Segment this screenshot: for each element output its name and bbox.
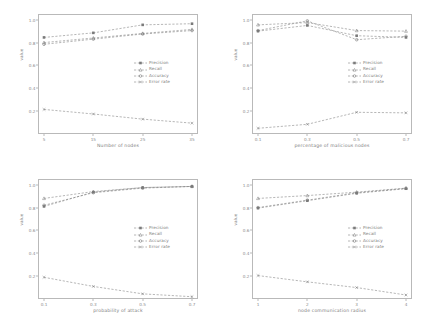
y-tick-label: 1.0 <box>243 182 250 187</box>
x-tick-label: 0.3 <box>304 137 311 142</box>
chart-panel-3: valueprobability of attack0.20.40.60.81.… <box>0 165 214 330</box>
x-axis-label: probability of attack <box>38 308 198 313</box>
y-tick-label: 0.8 <box>243 40 250 45</box>
figure-grid: valueNumber of nodes0.20.40.60.81.051525… <box>0 0 428 330</box>
legend-marker-icon <box>134 73 147 79</box>
x-axis-label: node communication radius <box>252 308 412 313</box>
x-tick-mark <box>142 134 143 136</box>
legend: Precision Recall Accuracy Error rate <box>348 225 384 251</box>
series-lines <box>252 179 412 299</box>
x-tick-label: 4 <box>405 302 408 307</box>
legend-marker-icon <box>134 60 147 66</box>
x-tick-label: 0.1 <box>255 137 262 142</box>
x-tick-mark <box>307 134 308 136</box>
x-tick-mark <box>93 299 94 301</box>
legend-label: Recall <box>149 232 162 236</box>
legend-label: Accuracy <box>363 74 383 78</box>
y-axis-label: value <box>19 198 24 242</box>
x-tick-label: 15 <box>91 137 96 142</box>
y-tick-label: 0.6 <box>29 228 36 233</box>
legend-label: Accuracy <box>363 239 383 243</box>
x-tick-mark <box>406 134 407 136</box>
x-tick-label: 0.1 <box>41 302 48 307</box>
y-axis-label: value <box>19 33 24 77</box>
plot-area: 0.20.40.60.81.00.10.30.50.7 Precision Re… <box>252 14 412 134</box>
legend-label: Error rate <box>363 245 384 249</box>
y-tick-label: 0.2 <box>29 109 36 114</box>
x-tick-mark <box>258 134 259 136</box>
y-tick-label: 0.2 <box>243 274 250 279</box>
y-tick-label: 1.0 <box>29 182 36 187</box>
y-axis-label: value <box>233 198 238 242</box>
legend-label: Accuracy <box>149 74 169 78</box>
chart-panel-2: valuepercentage of malicious nodes0.20.4… <box>214 0 428 165</box>
x-tick-mark <box>356 134 357 136</box>
legend-label: Precision <box>363 226 383 230</box>
x-tick-mark <box>406 299 407 301</box>
legend-label: Recall <box>363 232 376 236</box>
x-tick-mark <box>356 299 357 301</box>
y-tick-label: 0.4 <box>29 86 36 91</box>
series-lines <box>38 14 198 134</box>
y-tick-label: 0.8 <box>29 205 36 210</box>
y-tick-label: 0.4 <box>243 251 250 256</box>
legend-marker-icon <box>348 60 361 66</box>
legend-label: Recall <box>149 67 162 71</box>
legend-item[interactable]: Error rate <box>134 79 170 85</box>
x-tick-mark <box>44 299 45 301</box>
x-tick-mark <box>307 299 308 301</box>
x-tick-label: 2 <box>306 302 309 307</box>
x-tick-mark <box>93 134 94 136</box>
legend-marker-icon <box>348 67 361 73</box>
legend-label: Error rate <box>363 80 384 84</box>
x-tick-label: 0.5 <box>139 302 146 307</box>
y-tick-label: 0.8 <box>243 205 250 210</box>
legend-marker-icon <box>134 225 147 231</box>
legend-marker-icon <box>348 238 361 244</box>
legend-marker-icon <box>134 67 147 73</box>
y-tick-label: 0.6 <box>243 228 250 233</box>
legend-label: Precision <box>149 226 169 230</box>
plot-area: 0.20.40.60.81.05152535 Precision Recall … <box>38 14 198 134</box>
y-tick-label: 1.0 <box>243 17 250 22</box>
plot-area: 0.20.40.60.81.00.10.30.50.7 Precision Re… <box>38 179 198 299</box>
legend: Precision Recall Accuracy Error rate <box>134 225 170 251</box>
legend-label: Precision <box>363 61 383 65</box>
x-tick-mark <box>142 299 143 301</box>
legend-item[interactable]: Error rate <box>348 79 384 85</box>
legend-item[interactable]: Error rate <box>348 244 384 250</box>
x-tick-label: 25 <box>140 137 145 142</box>
y-tick-label: 0.2 <box>29 274 36 279</box>
x-tick-label: 3 <box>355 302 358 307</box>
y-tick-label: 1.0 <box>29 17 36 22</box>
legend-marker-icon <box>348 244 361 250</box>
series-lines <box>38 179 198 299</box>
legend: Precision Recall Accuracy Error rate <box>134 60 170 86</box>
x-tick-mark <box>192 134 193 136</box>
legend-marker-icon <box>134 238 147 244</box>
legend-label: Error rate <box>149 80 170 84</box>
x-tick-label: 0.7 <box>403 137 410 142</box>
legend-label: Accuracy <box>149 239 169 243</box>
legend-label: Precision <box>149 61 169 65</box>
x-tick-label: 0.5 <box>353 137 360 142</box>
legend-label: Error rate <box>149 245 170 249</box>
y-tick-label: 0.2 <box>243 109 250 114</box>
x-tick-mark <box>192 299 193 301</box>
x-tick-label: 35 <box>189 137 194 142</box>
legend-item[interactable]: Error rate <box>134 244 170 250</box>
legend-label: Recall <box>363 67 376 71</box>
x-axis-label: Number of nodes <box>38 143 198 148</box>
plot-area: 0.20.40.60.81.01234 Precision Recall Acc… <box>252 179 412 299</box>
x-tick-label: 5 <box>43 137 46 142</box>
y-axis-label: value <box>233 33 238 77</box>
legend-marker-icon <box>134 232 147 238</box>
legend-marker-icon <box>348 73 361 79</box>
legend-marker-icon <box>134 79 147 85</box>
y-tick-label: 0.6 <box>29 63 36 68</box>
y-tick-label: 0.6 <box>243 63 250 68</box>
legend: Precision Recall Accuracy Error rate <box>348 60 384 86</box>
x-tick-mark <box>44 134 45 136</box>
x-tick-label: 0.7 <box>189 302 196 307</box>
y-tick-label: 0.8 <box>29 40 36 45</box>
